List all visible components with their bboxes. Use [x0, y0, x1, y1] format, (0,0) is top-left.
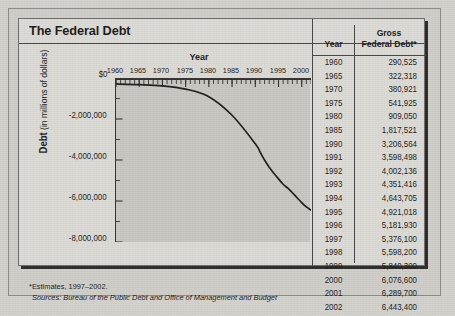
figure-frame: The Federal Debt Year 196019651970197519… [8, 8, 441, 296]
cell-year: 1996 [314, 220, 352, 230]
cell-year: 1994 [314, 193, 352, 203]
cell-gross-federal-debt: 322,318 [358, 71, 417, 81]
column-header-line1: Gross [377, 28, 402, 38]
cell-year: 1990 [314, 139, 352, 149]
table-row: 19995,840,300 [313, 261, 426, 275]
cell-gross-federal-debt: 6,443,400 [358, 302, 417, 312]
cell-year: 1965 [314, 71, 352, 81]
x-axis-minor-ticks [116, 79, 311, 84]
cell-year: 1992 [314, 166, 352, 176]
debt-series-line [116, 84, 311, 210]
footnote-estimates: *Estimates, 1997–2002. [29, 282, 409, 291]
y-axis-title-unit: (in millions of dollars) [39, 50, 49, 133]
y-axis-tick-labels: $0-2,000,000-4,000,000-6,000,000-8,000,0… [19, 74, 111, 242]
y-tick-label-3: -6,000,000 [69, 192, 107, 202]
y-tick-label-2: -4,000,000 [69, 151, 107, 161]
chart-panel: The Federal Debt Year 196019651970197519… [18, 18, 425, 266]
y-axis-title-strong: Debt [38, 132, 49, 153]
table-row: 19975,376,100 [313, 234, 426, 248]
cell-year: 2002 [314, 302, 352, 312]
cell-gross-federal-debt: 4,643,705 [358, 193, 417, 203]
x-tick-label-1975: 1975 [176, 66, 192, 75]
x-axis-title: Year [123, 51, 275, 62]
cell-year: 1998 [314, 247, 352, 257]
table-row: 19913,598,498 [313, 152, 426, 166]
plot-area [115, 78, 310, 242]
y-axis-ticks [116, 78, 123, 242]
cell-year: 1991 [314, 152, 352, 162]
cell-gross-federal-debt: 290,525 [358, 57, 417, 67]
cell-year: 1960 [314, 57, 352, 67]
cell-year: 1999 [314, 261, 352, 271]
y-tick-label-0: $0 [98, 69, 107, 79]
cell-gross-federal-debt: 5,840,300 [358, 261, 417, 271]
table-row: 1970380,921 [313, 84, 426, 98]
x-tick-label-1965: 1965 [130, 66, 146, 75]
x-tick-label-1980: 1980 [200, 66, 216, 75]
footnotes: *Estimates, 1997–2002. Sources: Bureau o… [29, 282, 429, 302]
table-row: 1980909,050 [313, 111, 426, 125]
table-row: 1960290,525 [313, 57, 426, 71]
cell-gross-federal-debt: 5,376,100 [358, 234, 417, 244]
cell-gross-federal-debt: 909,050 [358, 111, 417, 121]
cell-gross-federal-debt: 4,002,136 [358, 166, 417, 176]
cell-gross-federal-debt: 5,598,200 [358, 247, 417, 257]
table-header-row: Year Gross Federal Debt* [313, 23, 426, 56]
x-tick-label-1995: 1995 [269, 66, 285, 75]
table-row: 19851,817,521 [313, 125, 426, 139]
table-row: 20026,443,400 [313, 302, 426, 316]
column-header-line2: Federal Debt* [361, 39, 416, 49]
cell-year: 1997 [314, 234, 352, 244]
cell-gross-federal-debt: 1,817,521 [358, 125, 417, 135]
table-row: 19903,206,564 [313, 139, 426, 153]
cell-gross-federal-debt: 5,181,930 [358, 220, 417, 230]
cell-year: 1970 [314, 84, 352, 94]
table-row: 1965322,318 [313, 71, 426, 85]
y-tick-label-1: -2,000,000 [69, 110, 107, 120]
table-row: 19954,921,018 [313, 207, 426, 221]
y-axis-title: Debt (in millions of dollars) [38, 35, 49, 168]
y-tick-label-4: -8,000,000 [69, 233, 107, 243]
footnote-sources: Sources: Bureau of the Public Debt and O… [32, 293, 409, 302]
x-tick-label-1970: 1970 [153, 66, 169, 75]
table-row: 19944,643,705 [313, 193, 426, 207]
table-body: 1960290,5251965322,3181970380,9211975541… [313, 57, 426, 315]
table-row: 1975541,925 [313, 98, 426, 112]
cell-year: 1995 [314, 207, 352, 217]
table-row: 19924,002,136 [313, 166, 426, 180]
column-header-year: Year [314, 39, 353, 49]
table-row: 19965,181,930 [313, 220, 426, 234]
table-row: 19934,351,416 [313, 179, 426, 193]
chart-region: Year 19601965197019751980198519901995200… [19, 44, 312, 266]
cell-gross-federal-debt: 4,921,018 [358, 207, 417, 217]
cell-year: 1980 [314, 111, 352, 121]
cell-year: 1993 [314, 179, 352, 189]
cell-gross-federal-debt: 3,598,498 [358, 152, 417, 162]
cell-year: 1975 [314, 98, 352, 108]
x-tick-label-2000: 2000 [293, 66, 309, 75]
x-axis-tick-labels: 196019651970197519801985199019952000 [115, 66, 310, 77]
table-row: 19985,598,200 [313, 247, 426, 261]
x-tick-label-1985: 1985 [223, 66, 239, 75]
cell-year: 1985 [314, 125, 352, 135]
debt-line-chart-svg [116, 78, 311, 242]
cell-gross-federal-debt: 380,921 [358, 84, 417, 94]
cell-gross-federal-debt: 541,925 [358, 98, 417, 108]
x-tick-label-1990: 1990 [246, 66, 262, 75]
cell-gross-federal-debt: 4,351,416 [358, 179, 417, 189]
column-header-gross-federal-debt: Gross Federal Debt* [356, 28, 423, 50]
cell-gross-federal-debt: 3,206,564 [358, 139, 417, 149]
debt-data-table: Year Gross Federal Debt* 1960290,5251965… [312, 19, 426, 266]
